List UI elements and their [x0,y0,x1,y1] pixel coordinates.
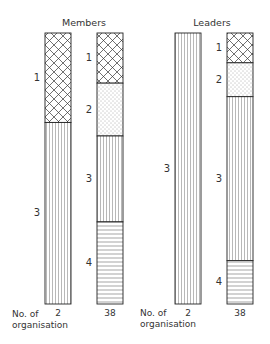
segment-label: 3 [34,207,40,218]
axis-label-members-line2: organisation [12,320,68,330]
segment-label: 2 [216,74,222,85]
segment-label: 4 [216,276,222,287]
bar-segment-leaders-38-1 [227,33,253,63]
group-title-members: Members [62,17,106,28]
group-title-leaders: Leaders [193,17,231,28]
bar-segment-leaders-2-3 [175,33,201,304]
segment-label: 3 [164,163,170,174]
bar-segment-leaders-38-2 [227,63,253,97]
stacked-bar-chart: Members Leaders 13212343832123438 No. of… [0,0,270,344]
axis-label-leaders-line1: No. of [140,308,167,318]
bar-segment-leaders-38-3 [227,97,253,261]
axis-label-members-line1: No. of [12,309,39,319]
category-tick-label: 38 [104,308,116,318]
category-tick-label: 2 [55,308,61,318]
segment-label: 1 [34,72,40,83]
bar-segment-members-2-1 [45,33,71,122]
category-tick-label: 38 [234,308,246,318]
bar-segment-members-38-2 [97,83,123,136]
axis-label-leaders-line2: organisation [140,319,196,329]
segment-label: 1 [86,52,92,63]
bar-segment-leaders-38-4 [227,261,253,304]
bar-segment-members-38-4 [97,222,123,304]
segment-label: 3 [86,173,92,184]
segment-label: 4 [86,257,92,268]
bar-segment-members-2-3 [45,122,71,304]
bar-segment-members-38-1 [97,33,123,83]
segment-label: 3 [216,173,222,184]
category-tick-label: 2 [185,308,191,318]
segment-label: 1 [216,42,222,53]
bar-segment-members-38-3 [97,136,123,222]
bars-layer: 13212343832123438 [34,33,253,318]
segment-label: 2 [86,104,92,115]
